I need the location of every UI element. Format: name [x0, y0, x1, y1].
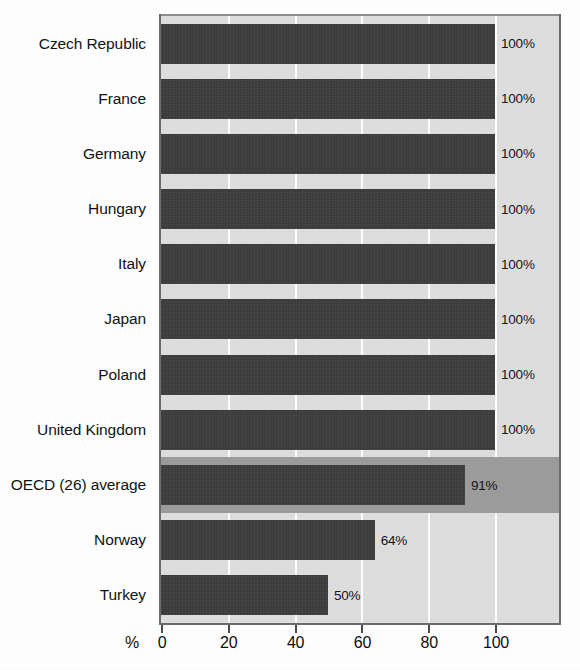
bar	[161, 244, 495, 284]
chart-row: Turkey50%	[0, 568, 580, 623]
bar-value-label: 100%	[501, 422, 535, 437]
chart-row: OECD (26) average91%	[0, 457, 580, 512]
x-axis-unit-label: %	[125, 634, 139, 652]
bar	[161, 134, 495, 174]
category-label: Italy	[0, 255, 146, 273]
category-label: Japan	[0, 310, 146, 328]
x-tick-label: 100	[470, 634, 522, 652]
x-tick-label: 80	[403, 634, 455, 652]
bar-value-label: 100%	[501, 36, 535, 51]
plot-left-border	[159, 14, 161, 625]
category-label: OECD (26) average	[0, 476, 146, 494]
category-label: Poland	[0, 366, 146, 384]
chart-row: United Kingdom100%	[0, 402, 580, 457]
category-label: Hungary	[0, 200, 146, 218]
x-tick-label: 20	[203, 634, 255, 652]
chart-row: Poland100%	[0, 347, 580, 402]
bar	[161, 299, 495, 339]
chart-row: Czech Republic100%	[0, 16, 580, 71]
bar-chart-figure: Czech Republic100%France100%Germany100%H…	[0, 0, 580, 670]
chart-title-cropped	[150, 0, 560, 7]
bar	[161, 355, 495, 395]
bar-value-label: 100%	[501, 202, 535, 217]
bar	[161, 189, 495, 229]
chart-row: Hungary100%	[0, 182, 580, 237]
bar-value-label: 64%	[381, 533, 407, 548]
bar-value-label: 100%	[501, 91, 535, 106]
x-tick-label: 60	[336, 634, 388, 652]
chart-row: Germany100%	[0, 126, 580, 181]
category-label: Norway	[0, 531, 146, 549]
chart-row: Italy100%	[0, 237, 580, 292]
bar	[161, 410, 495, 450]
category-label: Turkey	[0, 586, 146, 604]
bar-value-label: 100%	[501, 146, 535, 161]
bar-value-label: 91%	[471, 478, 497, 493]
bar-value-label: 100%	[501, 312, 535, 327]
x-tick-mark-0	[161, 625, 163, 633]
bar-value-label: 100%	[501, 367, 535, 382]
plot-top-border	[159, 14, 560, 16]
category-label: United Kingdom	[0, 421, 146, 439]
chart-row: France100%	[0, 71, 580, 126]
category-label: France	[0, 90, 146, 108]
bar	[161, 520, 375, 560]
x-tick-mark-100	[495, 625, 497, 633]
x-tick-mark-40	[295, 625, 297, 633]
bar-value-label: 50%	[334, 588, 360, 603]
x-axis-line	[159, 623, 561, 625]
x-tick-mark-20	[228, 625, 230, 633]
bar-value-label: 100%	[501, 257, 535, 272]
category-label: Germany	[0, 145, 146, 163]
bar	[161, 24, 495, 64]
x-tick-mark-80	[428, 625, 430, 633]
x-tick-mark-60	[361, 625, 363, 633]
bar	[161, 79, 495, 119]
chart-row: Norway64%	[0, 513, 580, 568]
chart-row: Japan100%	[0, 292, 580, 347]
bar	[161, 465, 465, 505]
category-label: Czech Republic	[0, 35, 146, 53]
x-tick-label: 40	[270, 634, 322, 652]
plot-right-border	[559, 14, 561, 625]
x-tick-label: 0	[136, 634, 188, 652]
bar	[161, 575, 328, 615]
